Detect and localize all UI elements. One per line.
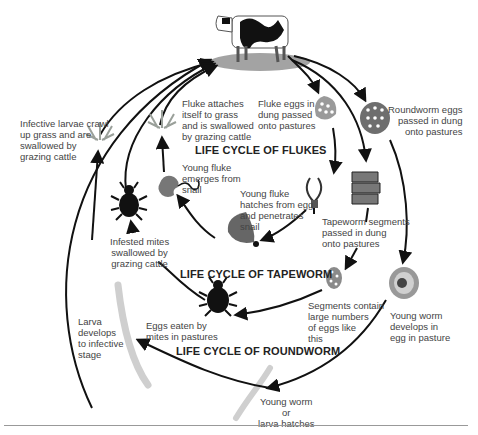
- label-infested-mites: Infested mites swallowed by grazing catt…: [110, 236, 169, 269]
- fluke-egg-icon: [315, 96, 336, 120]
- label-young-worm-develops: Young worm develops in egg in pasture: [390, 310, 450, 343]
- title-tapeworm: LIFE CYCLE OF TAPEWORM: [180, 268, 332, 280]
- tapeworm-segments-icon: [352, 172, 380, 204]
- developing-egg-icon: [389, 267, 419, 299]
- label-larva-develops: Larva develops to infective stage: [78, 316, 123, 360]
- title-roundworm: LIFE CYCLE OF ROUNDWORM: [176, 345, 340, 357]
- label-segments-contain: Segments contain large numbers of eggs l…: [308, 300, 384, 344]
- label-infective-larvae: Infective larvae crawl up grass and are …: [20, 118, 109, 162]
- label-tapeworm-segments: Tapeworm segments passed in dung onto pa…: [322, 216, 410, 249]
- divider: [4, 425, 468, 426]
- title-flukes: LIFE CYCLE OF FLUKES: [195, 144, 327, 156]
- label-eggs-eaten: Eggs eaten by mites in pastures: [146, 320, 218, 342]
- label-fluke-attaches: Fluke attaches itself to grass and is sw…: [182, 98, 254, 142]
- roundworm-egg-icon: [360, 102, 390, 134]
- mite-icon: [111, 182, 147, 220]
- label-roundworm-eggs: Roundworm eggs passed in dung onto pastu…: [388, 104, 462, 137]
- label-fluke-eggs: Fluke eggs in dung passed onto pastures: [258, 98, 316, 131]
- label-young-fluke-emerges: Young fluke emerges from snail: [182, 162, 241, 195]
- label-young-fluke-hatches: Young fluke hatches from egg and penetra…: [240, 188, 313, 232]
- mite-icon: [199, 277, 237, 316]
